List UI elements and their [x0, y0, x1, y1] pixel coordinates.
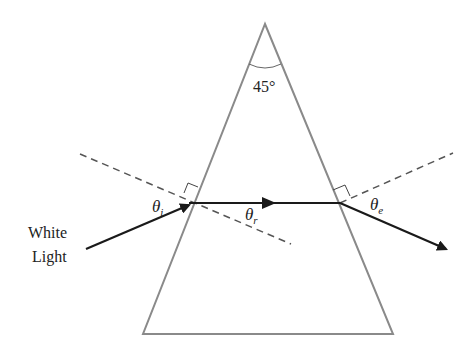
refracted-ray-arrowhead	[262, 197, 276, 209]
angle-incidence-label: θi	[152, 197, 163, 218]
apex-angle-label: 45°	[253, 78, 275, 95]
apex-angle-arc	[249, 64, 281, 68]
normal-right	[340, 153, 453, 203]
incident-ray	[86, 205, 189, 249]
angle-refraction-label: θr	[245, 205, 258, 226]
source-label: White Light	[28, 224, 71, 266]
normal-left	[80, 154, 291, 244]
prism-diagram: 45° White Light θi θr θe	[0, 0, 470, 354]
prism	[143, 24, 393, 334]
angle-emergence-label: θe	[370, 195, 383, 216]
right-angle-marker-left	[184, 183, 198, 193]
